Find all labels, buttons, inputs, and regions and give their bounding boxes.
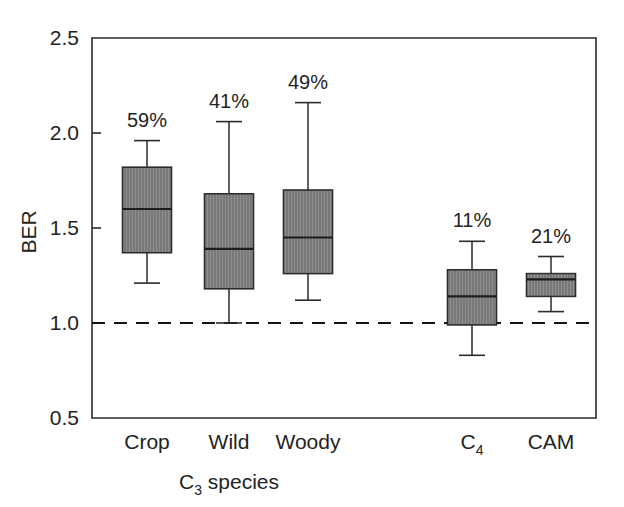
x-axis-title: C3 species (179, 470, 279, 498)
percent-annotation: 59% (127, 109, 167, 131)
x-tick-label-woody: Woody (276, 430, 341, 453)
box-plots-group: 59%41%49%11%21% (123, 71, 576, 356)
percent-annotation: 21% (531, 225, 571, 247)
x-axis-title-group: C3 species (179, 470, 279, 498)
chart-canvas: 2.52.01.51.00.5 59%41%49%11%21% CropWild… (0, 0, 624, 507)
boxplot-figure: 2.52.01.51.00.5 59%41%49%11%21% CropWild… (0, 0, 624, 507)
percent-annotation: 49% (288, 71, 328, 93)
y-axis-title-group: BER (17, 210, 40, 253)
box-plot-cam (527, 257, 576, 312)
y-tick-label: 2.0 (50, 121, 79, 144)
y-tick-label: 1.5 (50, 216, 79, 239)
box-plot-wild (205, 122, 254, 323)
x-tick-label-wild: Wild (209, 430, 250, 453)
y-tick-label: 1.0 (50, 311, 79, 334)
percent-annotation: 11% (453, 209, 492, 231)
box-plot-woody (284, 103, 333, 301)
box-body (284, 190, 333, 274)
y-axis-ticks: 2.52.01.51.00.5 (50, 26, 101, 429)
box-body (527, 274, 576, 297)
box-plot-c4 (448, 241, 497, 355)
y-axis-title: BER (17, 210, 40, 253)
x-tick-label-crop: Crop (124, 430, 170, 453)
x-axis-labels: CropWildWoodyC4CAM (124, 430, 574, 458)
box-body (205, 194, 254, 289)
box-plot-crop (123, 141, 172, 284)
x-tick-label-c4: C4 (461, 430, 484, 458)
percent-annotation: 41% (209, 90, 249, 112)
y-tick-label: 2.5 (50, 26, 79, 49)
y-tick-label: 0.5 (50, 406, 79, 429)
x-tick-label-cam: CAM (528, 430, 575, 453)
